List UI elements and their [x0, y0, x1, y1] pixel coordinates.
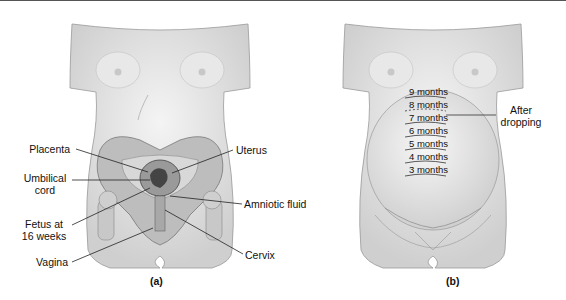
label-7-months: 7 months: [409, 112, 448, 123]
caption-a: (a): [150, 275, 163, 287]
label-amniotic-fluid: Amniotic fluid: [244, 198, 306, 210]
label-uterus: Uterus: [236, 144, 267, 156]
label-vagina: Vagina: [20, 256, 68, 268]
label-6-months: 6 months: [409, 125, 448, 136]
label-after-dropping: After dropping: [494, 104, 548, 128]
label-umbilical-line1: Umbilical: [20, 172, 70, 184]
label-umbilical-line2: cord: [20, 184, 70, 196]
label-4-months: 4 months: [409, 151, 448, 162]
label-fetus: Fetus at 16 weeks: [18, 218, 70, 242]
caption-b: (b): [446, 275, 459, 287]
label-8-months: 8 months: [409, 99, 448, 110]
label-9-months: 9 months: [409, 86, 448, 97]
label-fetus-line1: Fetus at: [18, 218, 70, 230]
label-cervix: Cervix: [245, 249, 275, 261]
torso-a: [70, 24, 250, 268]
label-fetus-line2: 16 weeks: [18, 230, 70, 242]
illustration: [0, 0, 566, 300]
label-3-months: 3 months: [409, 164, 448, 175]
label-5-months: 5 months: [409, 138, 448, 149]
label-after-line2: dropping: [494, 116, 548, 128]
label-umbilical-cord: Umbilical cord: [20, 172, 70, 196]
label-after-line1: After: [494, 104, 548, 116]
label-placenta: Placenta: [20, 143, 70, 155]
